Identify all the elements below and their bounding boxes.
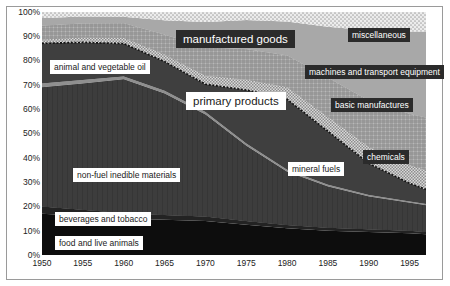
x-tick-1995: 1995	[400, 258, 419, 268]
y-tick-50: 50%	[6, 129, 40, 138]
annotation-beverages-tobacco: beverages and tobacco	[55, 212, 151, 226]
y-tick-20: 20%	[6, 202, 40, 211]
y-axis: 100% 90% 80% 70% 60% 50% 40% 30% 20% 10%…	[0, 0, 40, 286]
y-tick-10: 10%	[6, 227, 40, 236]
x-tick-1985: 1985	[318, 258, 337, 268]
annotation-mineral-fuels: mineral fuels	[288, 162, 344, 176]
annotation-manufactured-goods: manufactured goods	[176, 30, 295, 48]
chart-figure: 100% 90% 80% 70% 60% 50% 40% 30% 20% 10%…	[0, 0, 450, 286]
y-tick-70: 70%	[6, 81, 40, 90]
y-tick-100: 100%	[6, 8, 40, 17]
annotation-miscellaneous: miscellaneous	[348, 28, 410, 42]
annotation-food-live-animals: food and live animals	[55, 236, 143, 250]
annotation-animal-vegetable-oil: animal and vegetable oil	[50, 60, 150, 74]
y-tick-80: 80%	[6, 56, 40, 65]
x-tick-1980: 1980	[278, 258, 297, 268]
annotation-non-fuel-inedible: non-fuel inedible materials	[73, 168, 180, 182]
x-tick-1960: 1960	[114, 258, 133, 268]
x-tick-1970: 1970	[196, 258, 215, 268]
x-tick-1975: 1975	[237, 258, 256, 268]
annotation-machines-transport: machines and transport equipment	[305, 65, 444, 79]
x-tick-1990: 1990	[359, 258, 378, 268]
y-tick-90: 90%	[6, 32, 40, 41]
annotation-primary-products: primary products	[186, 92, 286, 110]
x-tick-1950: 1950	[33, 258, 52, 268]
y-tick-40: 40%	[6, 154, 40, 163]
annotation-basic-manufactures: basic manufactures	[331, 98, 413, 112]
y-tick-30: 30%	[6, 178, 40, 187]
x-tick-1955: 1955	[73, 258, 92, 268]
x-axis: 1950 1955 1960 1965 1970 1975 1980 1985 …	[42, 258, 426, 274]
x-tick-1965: 1965	[155, 258, 174, 268]
y-tick-60: 60%	[6, 105, 40, 114]
annotation-chemicals: chemicals	[363, 150, 409, 164]
